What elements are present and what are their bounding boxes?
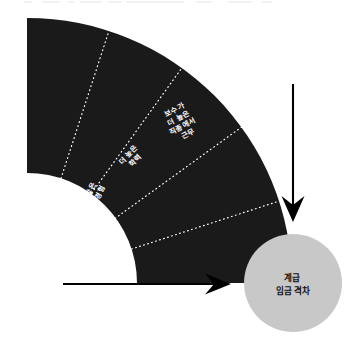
outcome-circle-shape: [244, 234, 342, 332]
arc-segment-5-label: 런던에서 근무: [232, 45, 265, 67]
arc-segment-1: 더 큰 회사에서 근무: [48, 213, 80, 248]
arc-flow-diagram: 더 큰 회사에서 근무 더 많은 일 경험 더 높은 학력 보수가 더 높은: [0, 0, 352, 344]
arc-segment-1-label: 더 큰 회사에서 근무: [48, 213, 80, 248]
arrow-vertical: [282, 84, 305, 222]
diagram-canvas: 더 큰 회사에서 근무 더 많은 일 경험 더 높은 학력 보수가 더 높은: [0, 0, 352, 344]
outcome-circle: 계급 임금 격차: [244, 234, 342, 332]
arc-segment-5: 런던에서 근무: [232, 45, 265, 67]
